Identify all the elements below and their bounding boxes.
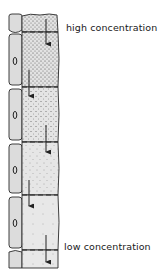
sieve-tube-segment-4 bbox=[22, 142, 59, 195]
companion-cell-1 bbox=[9, 34, 22, 85]
sieve-tube-segment-3 bbox=[22, 87, 59, 142]
companion-cell-2 bbox=[9, 89, 22, 140]
companion-cell-bottom bbox=[9, 251, 22, 269]
sieve-tube bbox=[22, 14, 59, 268]
sieve-tube-segment-6 bbox=[22, 250, 58, 268]
sieve-tube-segment-2 bbox=[22, 32, 59, 87]
companion-cells bbox=[9, 14, 22, 268]
companion-cell-3 bbox=[9, 144, 22, 193]
companion-cell-top bbox=[9, 14, 22, 33]
sieve-tube-diagram bbox=[0, 0, 159, 273]
high-concentration-label: high concentration bbox=[66, 22, 157, 33]
low-concentration-label: low concentration bbox=[64, 241, 151, 252]
companion-cell-4 bbox=[9, 197, 22, 248]
sieve-tube-segment-5 bbox=[22, 195, 59, 250]
sieve-tube-segment-1 bbox=[22, 14, 58, 32]
